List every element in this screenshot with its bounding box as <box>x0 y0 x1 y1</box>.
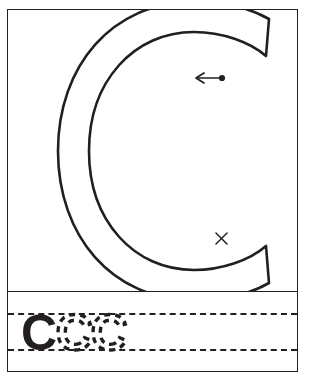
handwriting-worksheet: C C C <box>0 0 310 383</box>
dashed-trace-letter-1[interactable]: C <box>56 305 92 361</box>
stroke-start-dot <box>219 75 225 81</box>
practice-letters: C C C <box>8 292 296 371</box>
large-letter-tracing-area <box>8 10 297 291</box>
stroke-direction-arrow <box>196 73 225 83</box>
solid-example-letter: C <box>21 305 57 361</box>
letter-c-glyph-outline <box>58 10 269 291</box>
dashed-trace-letter-2[interactable]: C <box>91 305 127 361</box>
page-border: C C C <box>7 9 298 372</box>
large-letter-c-outline <box>8 10 296 291</box>
stroke-end-cross <box>216 233 227 244</box>
practice-writing-band: C C C <box>8 292 297 371</box>
